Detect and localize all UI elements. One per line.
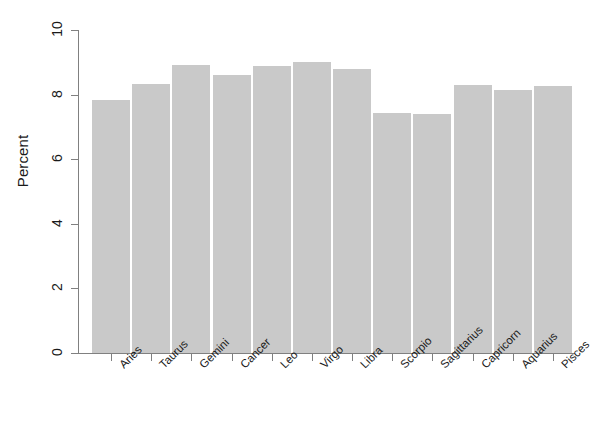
y-tick-mark bbox=[71, 159, 78, 160]
x-tick-mark bbox=[553, 354, 554, 361]
bar bbox=[171, 65, 211, 353]
bar bbox=[493, 90, 533, 353]
y-tick-label: 6 bbox=[49, 145, 65, 171]
x-tick-mark bbox=[191, 354, 192, 361]
y-tick-mark bbox=[71, 288, 78, 289]
bar bbox=[533, 86, 573, 353]
bar bbox=[91, 100, 131, 353]
y-tick-label: 10 bbox=[49, 16, 65, 42]
bar bbox=[212, 75, 252, 353]
plot-area bbox=[91, 30, 573, 353]
bar bbox=[332, 69, 372, 353]
y-axis-label: Percent bbox=[14, 111, 36, 211]
bar bbox=[252, 66, 292, 353]
x-tick-mark bbox=[111, 354, 112, 361]
x-tick-mark bbox=[312, 354, 313, 361]
bar bbox=[372, 113, 412, 353]
y-tick-mark bbox=[71, 353, 78, 354]
x-tick-mark bbox=[473, 354, 474, 361]
y-tick-label: 8 bbox=[49, 81, 65, 107]
y-tick-mark bbox=[71, 224, 78, 225]
y-tick-label: 0 bbox=[49, 339, 65, 365]
x-tick-mark bbox=[272, 354, 273, 361]
x-tick-mark bbox=[392, 354, 393, 361]
y-tick-mark bbox=[71, 95, 78, 96]
x-tick-mark bbox=[513, 354, 514, 361]
y-tick-mark bbox=[71, 30, 78, 31]
x-tick-mark bbox=[432, 354, 433, 361]
x-tick-mark bbox=[232, 354, 233, 361]
bar bbox=[453, 85, 493, 353]
x-tick-mark bbox=[151, 354, 152, 361]
y-tick-label: 4 bbox=[49, 210, 65, 236]
bar bbox=[131, 84, 171, 353]
bar bbox=[292, 62, 332, 353]
bar bbox=[412, 114, 452, 353]
y-axis-line bbox=[78, 30, 79, 354]
y-tick-label: 2 bbox=[49, 274, 65, 300]
bar-chart: Percent 0246810 AriesTaurusGeminiCancerL… bbox=[0, 0, 595, 426]
x-tick-mark bbox=[352, 354, 353, 361]
